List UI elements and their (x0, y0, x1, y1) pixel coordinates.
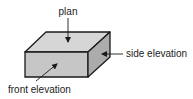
side-elevation-label: side elevation (126, 48, 187, 59)
front-elevation-label: front elevation (8, 84, 71, 95)
plan-label: plan (59, 6, 78, 17)
box-diagram: plan side elevation front elevation (0, 0, 193, 99)
